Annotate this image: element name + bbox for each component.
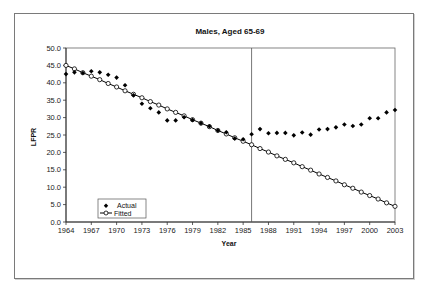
actual-point bbox=[156, 110, 161, 115]
y-tick-label: 50.0 bbox=[46, 44, 61, 53]
actual-point bbox=[148, 106, 153, 111]
y-tick-label: 15.0 bbox=[46, 165, 61, 174]
actual-point bbox=[393, 108, 398, 113]
fitted-point bbox=[317, 172, 321, 176]
fitted-point bbox=[165, 107, 169, 111]
x-tick-label: 1994 bbox=[311, 226, 328, 235]
actual-point bbox=[334, 125, 339, 130]
actual-point bbox=[283, 131, 288, 136]
x-tick-label: 1991 bbox=[285, 226, 302, 235]
actual-point bbox=[342, 122, 347, 127]
fitted-point bbox=[106, 81, 110, 85]
actual-point bbox=[351, 124, 356, 129]
x-axis-title: Year bbox=[222, 240, 237, 247]
y-tick-label: 10.0 bbox=[46, 183, 61, 192]
fitted-point bbox=[368, 193, 372, 197]
y-axis-title: LFPR bbox=[30, 128, 37, 146]
fitted-point bbox=[64, 63, 68, 67]
y-tick-label: 5.0 bbox=[51, 200, 61, 209]
actual-point bbox=[266, 131, 271, 136]
x-tick-label: 2000 bbox=[361, 226, 378, 235]
fitted-point bbox=[376, 197, 380, 201]
fitted-point bbox=[283, 157, 287, 161]
actual-point bbox=[325, 127, 330, 132]
fitted-point bbox=[157, 103, 161, 107]
fitted-point bbox=[249, 143, 253, 147]
actual-point bbox=[123, 83, 128, 88]
actual-point bbox=[64, 72, 69, 77]
x-tick-label: 1973 bbox=[134, 226, 151, 235]
actual-point bbox=[384, 110, 389, 115]
x-tick-label: 1964 bbox=[58, 226, 75, 235]
fitted-point bbox=[384, 201, 388, 205]
actual-point bbox=[258, 127, 263, 132]
fitted-point bbox=[98, 78, 102, 82]
y-tick-label: 35.0 bbox=[46, 96, 61, 105]
y-tick-label: 25.0 bbox=[46, 131, 61, 140]
actual-point bbox=[359, 122, 364, 127]
fitted-point bbox=[275, 154, 279, 158]
fitted-point bbox=[266, 150, 270, 154]
legend-fitted-label: Fitted bbox=[114, 210, 132, 217]
fitted-point bbox=[325, 175, 329, 179]
fitted-point bbox=[300, 165, 304, 169]
x-tick-label: 1979 bbox=[184, 226, 201, 235]
actual-point bbox=[376, 116, 381, 121]
actual-point bbox=[249, 132, 254, 137]
x-tick-label: 1997 bbox=[336, 226, 353, 235]
actual-point bbox=[165, 118, 170, 123]
actual-point bbox=[89, 69, 94, 74]
actual-point bbox=[317, 127, 322, 132]
fitted-point bbox=[359, 190, 363, 194]
plot-border bbox=[66, 48, 395, 222]
fitted-point bbox=[342, 183, 346, 187]
actual-point bbox=[97, 70, 102, 75]
fitted-point bbox=[115, 85, 119, 89]
fitted-point bbox=[140, 96, 144, 100]
y-tick-label: 30.0 bbox=[46, 113, 61, 122]
chart: Males, Aged 65-69 0.05.010.015.020.025.0… bbox=[0, 0, 426, 290]
x-tick-label: 1982 bbox=[210, 226, 227, 235]
x-tick-label: 1976 bbox=[159, 226, 176, 235]
actual-point bbox=[114, 75, 119, 80]
fitted-point bbox=[292, 161, 296, 165]
actual-point bbox=[106, 72, 111, 77]
fitted-point bbox=[123, 89, 127, 93]
legend: Actual Fitted bbox=[98, 199, 146, 218]
actual-point bbox=[291, 133, 296, 138]
actual-point bbox=[140, 101, 145, 106]
actual-point bbox=[367, 116, 372, 121]
x-tick-label: 1970 bbox=[108, 226, 125, 235]
legend-actual-label: Actual bbox=[117, 202, 137, 209]
fitted-point bbox=[174, 110, 178, 114]
actual-point bbox=[275, 131, 280, 136]
x-tick-label: 1985 bbox=[235, 226, 252, 235]
legend-fitted-marker bbox=[104, 211, 108, 215]
x-tick-label: 2003 bbox=[387, 226, 404, 235]
fitted-point bbox=[334, 179, 338, 183]
fitted-point bbox=[258, 146, 262, 150]
fitted-point bbox=[148, 99, 152, 103]
fitted-point bbox=[309, 168, 313, 172]
y-tick-label: 40.0 bbox=[46, 78, 61, 87]
y-tick-label: 45.0 bbox=[46, 61, 61, 70]
x-tick-label: 1988 bbox=[260, 226, 277, 235]
actual-point bbox=[173, 118, 178, 123]
fitted-point bbox=[393, 204, 397, 208]
actual-point bbox=[300, 130, 305, 135]
fitted-point bbox=[351, 186, 355, 190]
chart-title: Males, Aged 65-69 bbox=[195, 27, 265, 36]
fitted-point bbox=[89, 74, 93, 78]
x-tick-label: 1967 bbox=[83, 226, 100, 235]
y-tick-label: 20.0 bbox=[46, 148, 61, 157]
actual-point bbox=[308, 132, 313, 137]
